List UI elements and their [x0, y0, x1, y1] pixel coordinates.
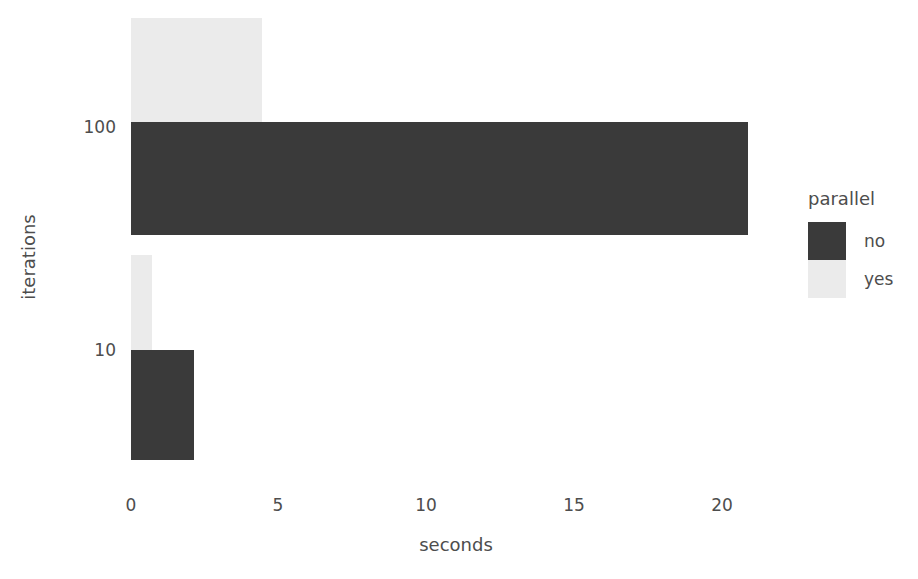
y-axis-ticks: 100 10 [50, 0, 116, 579]
bar-chart: 0 5 10 15 20 seconds 100 10 iterations p… [0, 0, 918, 579]
x-axis-tick-0: 0 [126, 497, 137, 514]
x-axis-tick-20: 20 [711, 497, 733, 514]
y-axis-title: iterations [20, 197, 38, 317]
legend-item-no: no [808, 222, 918, 260]
legend-title: parallel [808, 190, 918, 208]
legend-item-yes: yes [808, 260, 918, 298]
x-axis-title: seconds [131, 536, 781, 554]
x-axis-tick-5: 5 [273, 497, 284, 514]
bar-iterations-10-parallel-yes [131, 255, 152, 350]
x-axis-tick-15: 15 [563, 497, 585, 514]
legend-swatch-yes [808, 260, 846, 298]
legend-label-yes: yes [864, 271, 893, 288]
y-axis-tick-100: 100 [56, 119, 116, 136]
bar-iterations-10-parallel-no [131, 350, 194, 460]
legend: parallel no yes [808, 190, 918, 298]
x-axis-tick-10: 10 [415, 497, 437, 514]
legend-swatch-no [808, 222, 846, 260]
bar-iterations-100-parallel-yes [131, 18, 262, 122]
y-axis-tick-10: 10 [56, 342, 116, 359]
bar-iterations-100-parallel-no [131, 122, 748, 235]
plot-area [131, 8, 781, 488]
legend-label-no: no [864, 233, 885, 250]
